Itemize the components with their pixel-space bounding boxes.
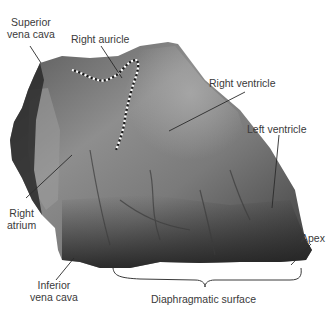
diaphragmatic-surface-brace	[113, 268, 301, 287]
leader-superior-vena-cava	[30, 46, 41, 63]
bottom-dark-region	[62, 195, 312, 268]
leader-inferior-vena-cava	[56, 258, 74, 280]
label-apex: Apex	[301, 232, 325, 244]
label-left-ventricle: Left ventricle	[247, 123, 307, 135]
label-right-atrium-line2: atrium	[7, 219, 36, 231]
label-inferior-vena-cava-line2: vena cava	[30, 291, 78, 303]
label-inferior-vena-cava: Inferior vena cava	[30, 279, 78, 303]
label-superior-vena-cava: Superior vena cava	[7, 16, 55, 40]
label-right-auricle: Right auricle	[71, 33, 129, 45]
label-inferior-vena-cava-line1: Inferior	[30, 279, 78, 291]
label-diaphragmatic-surface: Diaphragmatic surface	[151, 293, 256, 305]
label-superior-vena-cava-line1: Superior	[7, 16, 55, 28]
label-superior-vena-cava-line2: vena cava	[7, 28, 55, 40]
label-right-ventricle: Right ventricle	[209, 77, 276, 89]
label-right-atrium-line1: Right	[7, 207, 36, 219]
heart-specimen-figure	[0, 0, 331, 309]
label-right-atrium: Right atrium	[7, 207, 36, 231]
